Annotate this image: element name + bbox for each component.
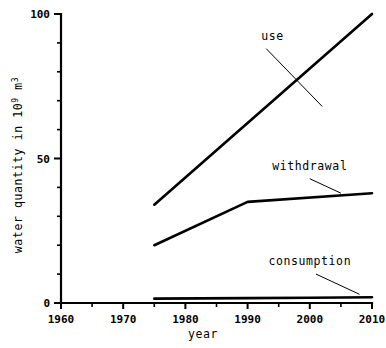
svg-text:water quantity in 109 m3: water quantity in 109 m3 — [11, 77, 25, 253]
annotation-leader-withdrawal — [310, 179, 341, 193]
x-tick-label: 2010 — [359, 313, 386, 326]
x-tick-label: 1990 — [234, 313, 261, 326]
y-axis-title-prefix: water quantity in 10 — [11, 103, 25, 253]
y-axis-title-unit-exponent: 3 — [11, 77, 20, 82]
y-tick-label: 100 — [30, 8, 50, 21]
y-axis-title-unit: m — [11, 82, 25, 97]
x-tick-label: 1960 — [48, 313, 75, 326]
y-tick-label: 0 — [43, 297, 50, 310]
x-tick-label: 1980 — [172, 313, 199, 326]
y-axis-title: water quantity in 109 m3 — [11, 77, 25, 253]
line-chart: 050100 196019701980199020002010 usewithd… — [0, 0, 386, 348]
y-tick-label: 50 — [37, 153, 50, 166]
chart-container: 050100 196019701980199020002010 usewithd… — [0, 0, 386, 348]
x-axis-tick-labels: 196019701980199020002010 — [48, 313, 386, 326]
y-axis-tick-labels: 050100 — [30, 8, 50, 310]
x-tick-label: 1970 — [110, 313, 137, 326]
x-axis-title: year — [188, 327, 218, 341]
series-line-withdrawal — [154, 193, 372, 245]
x-tick-label: 2000 — [297, 313, 324, 326]
annotation-label-withdrawal: withdrawal — [272, 159, 347, 173]
annotation-leader-consumption — [316, 274, 360, 294]
annotation-label-use: use — [261, 29, 284, 43]
annotation-label-consumption: consumption — [268, 254, 351, 268]
series-line-consumption — [154, 297, 372, 298]
